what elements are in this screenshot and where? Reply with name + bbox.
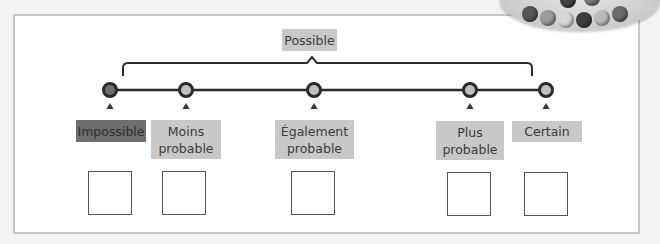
answer-box-moins-probable[interactable] bbox=[162, 171, 206, 215]
scale-node-egalement-probable bbox=[308, 84, 321, 97]
label-egalement-probable: Également probable bbox=[275, 120, 354, 159]
pointer-triangle-icon bbox=[467, 103, 474, 109]
label-certain: Certain bbox=[512, 121, 582, 142]
scale-node-impossible bbox=[104, 84, 117, 97]
pointer-triangle-icon bbox=[107, 103, 114, 109]
answer-box-egalement-probable[interactable] bbox=[291, 171, 335, 215]
scale-node-plus-probable bbox=[464, 84, 477, 97]
label-plus-probable: Plus probable bbox=[436, 121, 504, 160]
possible-brace bbox=[123, 57, 532, 76]
answer-box-certain[interactable] bbox=[524, 172, 568, 216]
scale-node-certain bbox=[540, 84, 553, 97]
label-impossible: Impossible bbox=[76, 120, 146, 142]
pointer-triangle-icon bbox=[543, 103, 550, 109]
label-moins-probable: Moins probable bbox=[151, 120, 221, 159]
answer-box-plus-probable[interactable] bbox=[447, 172, 491, 216]
answer-box-impossible[interactable] bbox=[88, 171, 132, 215]
pointer-triangle-icon bbox=[311, 103, 318, 109]
pointer-triangle-icon bbox=[183, 103, 190, 109]
scale-node-moins-probable bbox=[180, 84, 193, 97]
